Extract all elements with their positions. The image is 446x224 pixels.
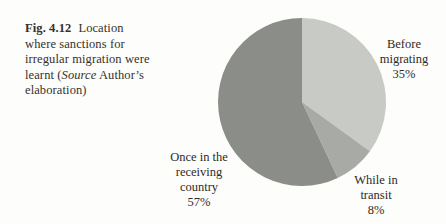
caption-line-2: where sanctions for bbox=[25, 37, 185, 53]
figure-4-12: Fig. 4.12Location where sanctions for ir… bbox=[0, 0, 446, 224]
caption-line-4-after: Author’s bbox=[96, 68, 144, 82]
pie-label-before-migrating: Before migrating 35% bbox=[366, 37, 442, 82]
caption-line-3: irregular migration were bbox=[25, 52, 185, 68]
caption-line-1: Fig. 4.12Location bbox=[25, 21, 185, 37]
caption-line-5: elaboration) bbox=[25, 83, 185, 99]
pie-label-once-in-receiving-country: Once in the receiving country 57% bbox=[154, 150, 244, 210]
figure-number: Fig. 4.12 bbox=[25, 21, 71, 35]
caption-title-word: Location bbox=[78, 21, 123, 35]
figure-caption: Fig. 4.12Location where sanctions for ir… bbox=[25, 21, 185, 99]
pie-label-while-in-transit: While in transit 8% bbox=[338, 173, 414, 218]
caption-line-4: learnt (Source Author’s bbox=[25, 68, 185, 84]
caption-source-word: Source bbox=[62, 68, 97, 82]
caption-line-4-before: learnt ( bbox=[25, 68, 62, 82]
